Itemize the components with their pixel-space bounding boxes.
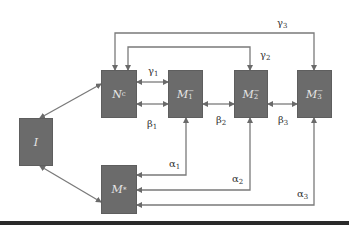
node-nc-sub: c <box>122 90 126 98</box>
node-i: I <box>19 118 53 166</box>
edge-nc-m2-gamma2 <box>128 47 250 70</box>
node-mstar-sup: * <box>123 186 127 194</box>
edge-i-nc <box>40 84 101 118</box>
node-nc: Nc <box>101 70 137 118</box>
label-beta3: β3 <box>278 115 288 127</box>
label-alpha3: α3 <box>297 189 308 201</box>
node-m2: M−2 <box>234 70 268 118</box>
label-alpha2: α2 <box>232 174 243 186</box>
bottom-border-bar <box>0 221 349 225</box>
node-m1: M−1 <box>168 70 203 118</box>
label-beta2: β2 <box>216 115 226 127</box>
label-gamma3: γ3 <box>277 18 287 30</box>
node-nc-label: N <box>112 88 122 101</box>
node-m1-sub: 1 <box>188 94 194 100</box>
node-m3-label: M <box>306 88 317 101</box>
node-m2-sub: 2 <box>254 94 260 100</box>
node-m3: M−3 <box>297 70 332 118</box>
label-gamma2: γ2 <box>260 50 270 62</box>
node-i-label: I <box>34 136 38 149</box>
edge-nc-m3-gamma3 <box>115 33 314 70</box>
edge-i-mstar <box>40 166 101 202</box>
node-m3-sub: 3 <box>317 94 323 100</box>
label-beta1: β1 <box>147 119 157 131</box>
node-mstar-label: M <box>112 183 123 196</box>
label-alpha1: α1 <box>169 159 180 171</box>
edge-mstar-m3-alpha3 <box>137 118 314 205</box>
node-m1-label: M <box>177 88 188 101</box>
compartment-diagram: I Nc M−1 M−2 M−3 M* γ1 γ2 γ3 β1 β2 β3 α1… <box>0 0 349 225</box>
node-mstar: M* <box>101 165 137 214</box>
node-m2-label: M <box>242 88 253 101</box>
label-gamma1: γ1 <box>148 66 158 78</box>
